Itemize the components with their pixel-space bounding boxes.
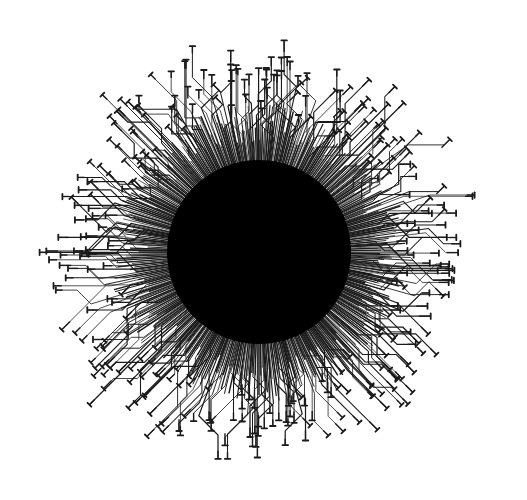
- radial-spoke: [260, 124, 261, 162]
- radial-spoke: [260, 342, 261, 376]
- radial-spoke: [349, 250, 381, 251]
- black-core-disc: [167, 160, 351, 344]
- radial-spoke: [349, 253, 380, 254]
- radial-spoke: [110, 250, 169, 251]
- circuit-sunburst-artwork: [0, 0, 527, 500]
